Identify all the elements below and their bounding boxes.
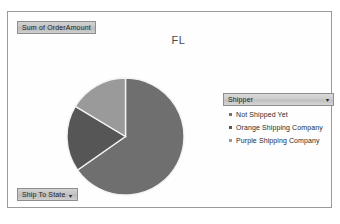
legend-swatch-icon [229,139,232,142]
legend-item-label: Orange Shipping Company [236,123,323,132]
legend-item-label: Not Shipped Yet [236,110,288,119]
pivot-chart-frame: Sum of OrderAmount FL Shipper ▾ Not Ship… [7,11,332,208]
data-field-button[interactable]: Sum of OrderAmount [17,21,96,34]
legend-swatch-icon [229,113,232,116]
legend: Shipper ▾ Not Shipped YetOrange Shipping… [223,93,334,145]
legend-item-label: Purple Shipping Company [236,136,320,145]
legend-item[interactable]: Purple Shipping Company [223,136,334,145]
legend-swatch-icon [229,126,232,129]
row-field-button[interactable]: Ship To State ▾ [17,188,78,201]
legend-item[interactable]: Not Shipped Yet [223,110,334,119]
row-field-label: Ship To State [22,189,65,200]
legend-field-label: Shipper [228,96,326,103]
legend-item[interactable]: Orange Shipping Company [223,123,334,132]
page-caption [8,212,208,224]
legend-field-button[interactable]: Shipper ▾ [223,93,334,106]
chart-title: FL [8,34,331,46]
legend-entry-list: Not Shipped YetOrange Shipping CompanyPu… [223,110,334,145]
chevron-down-icon[interactable]: ▾ [69,192,72,198]
chevron-down-icon[interactable]: ▾ [326,97,329,103]
data-field-label: Sum of OrderAmount [22,22,91,33]
pie-chart [66,77,185,196]
pie-chart-svg [66,77,185,196]
